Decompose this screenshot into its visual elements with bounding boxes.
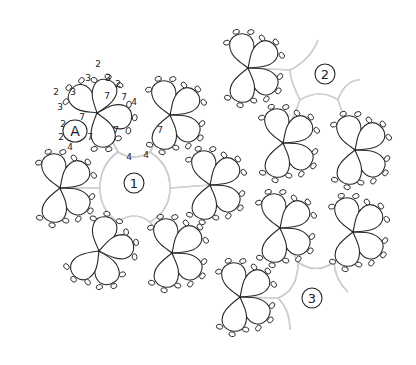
picot — [310, 211, 318, 219]
stitch-count: 7 — [87, 132, 93, 142]
chain-inner — [298, 262, 334, 269]
picot — [146, 142, 153, 148]
picot — [90, 171, 98, 179]
picot — [341, 266, 348, 272]
picot — [59, 149, 66, 155]
picot — [239, 258, 246, 264]
picot — [90, 146, 97, 152]
chain — [278, 298, 290, 330]
picot — [297, 170, 305, 178]
picot — [62, 217, 69, 223]
picot — [209, 146, 216, 152]
chain-inner — [170, 185, 210, 188]
picot — [240, 168, 248, 176]
picot — [132, 253, 138, 260]
ring-label-text: A — [70, 123, 80, 139]
picot — [259, 170, 266, 176]
ring-center — [169, 114, 171, 116]
picot — [132, 114, 138, 121]
flower-g — [221, 25, 290, 111]
round-label-number: 2 — [321, 67, 329, 82]
picot — [148, 280, 155, 286]
ring-center — [239, 296, 241, 298]
picot — [174, 282, 181, 288]
ring-center — [282, 142, 284, 144]
picot — [133, 239, 139, 246]
picot — [160, 287, 167, 293]
picot — [313, 126, 321, 134]
picot — [279, 189, 286, 195]
picot — [242, 326, 249, 332]
picot — [343, 184, 350, 190]
tatting-diagram: 2332233774722777444 A 123 — [0, 0, 416, 365]
picot — [254, 324, 262, 332]
picot — [268, 262, 275, 268]
stitch-count: 4 — [131, 97, 137, 107]
stitch-count: 4 — [126, 152, 132, 162]
flower-k — [326, 189, 395, 275]
picot — [228, 331, 235, 337]
ring-label-a: A — [63, 120, 87, 142]
stitch-count: 2 — [115, 79, 121, 89]
ring-center — [209, 184, 211, 186]
picot — [48, 222, 55, 228]
picot — [36, 215, 43, 221]
picot — [383, 215, 391, 223]
picot — [169, 76, 176, 82]
picot — [278, 51, 286, 59]
round-label-2: 2 — [315, 64, 335, 84]
picot — [247, 29, 254, 35]
ring-center — [354, 149, 356, 151]
ring-center — [247, 67, 249, 69]
chain — [290, 40, 318, 70]
picot — [200, 98, 208, 106]
stitch-count: 7 — [113, 125, 119, 135]
picot — [369, 177, 377, 185]
picot — [125, 127, 131, 134]
flower-i — [328, 107, 397, 193]
flower-h — [256, 100, 325, 186]
picot — [354, 111, 361, 117]
picot — [202, 236, 210, 244]
stitch-count: 7 — [104, 91, 110, 101]
stitch-count: 3 — [57, 102, 63, 112]
stitch-count: 2 — [95, 59, 101, 69]
picot — [282, 104, 289, 110]
stitch-count: 4 — [143, 150, 149, 160]
picot — [184, 142, 192, 150]
round-label-1: 1 — [124, 173, 144, 193]
picot — [96, 284, 104, 291]
ring-center — [352, 231, 354, 233]
stitch-count: 7 — [121, 92, 127, 102]
chain — [100, 152, 118, 188]
ring-center — [59, 187, 61, 189]
chain — [338, 80, 360, 100]
chain — [150, 152, 170, 188]
picot — [63, 263, 71, 271]
picot — [90, 77, 98, 84]
picot — [171, 214, 178, 220]
ring-center — [279, 227, 281, 229]
stitch-count: 3 — [105, 73, 111, 83]
picot — [355, 261, 362, 267]
stitch-count: 3 — [85, 73, 91, 83]
picot — [357, 179, 364, 185]
round-label-3: 3 — [302, 288, 322, 308]
stitch-count: 2 — [53, 87, 59, 97]
picot — [186, 280, 194, 288]
picot — [282, 257, 289, 263]
picot — [367, 259, 375, 267]
picot — [216, 324, 223, 330]
picot — [352, 193, 359, 199]
round-label-number: 3 — [308, 291, 316, 306]
picot — [172, 144, 179, 150]
stitch-count: 4 — [67, 142, 73, 152]
chain — [290, 70, 300, 100]
flower-j — [253, 185, 322, 271]
picot — [385, 133, 393, 141]
picot — [158, 149, 165, 155]
picot — [256, 255, 263, 261]
picot — [331, 177, 338, 183]
stitch-count: 3 — [70, 87, 76, 97]
picot — [271, 177, 278, 183]
